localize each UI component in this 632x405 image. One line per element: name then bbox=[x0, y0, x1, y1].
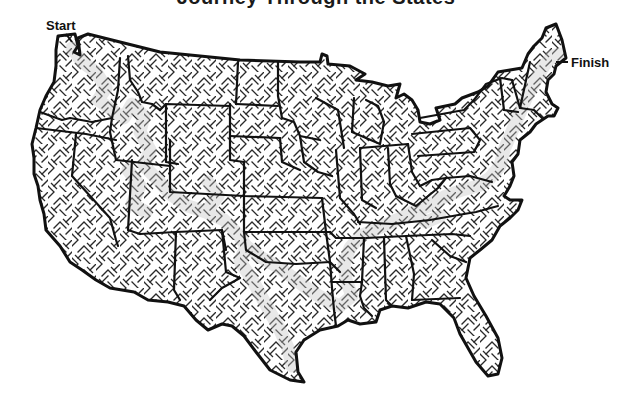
start-label: Start bbox=[46, 18, 76, 33]
us-map-maze-icon bbox=[0, 0, 632, 405]
maze-map bbox=[0, 0, 632, 405]
finish-label: Finish bbox=[571, 55, 609, 70]
